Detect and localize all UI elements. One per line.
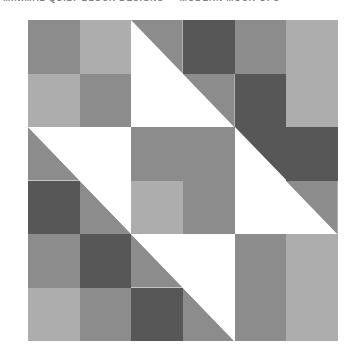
solid-patch (28, 234, 80, 288)
quilt-cell-r6-c4 (183, 288, 235, 342)
solid-patch (28, 20, 80, 74)
quilt-cell-r2-c4 (183, 74, 235, 128)
solid-patch (80, 74, 132, 128)
quilt-cell-r1-c6 (286, 20, 338, 74)
quilt-cell-r1-c1 (28, 20, 80, 74)
half-square-triangle (286, 181, 338, 235)
half-square-triangle (131, 234, 183, 288)
solid-patch (80, 127, 132, 181)
quilt-block-canvas (28, 20, 338, 341)
half-square-triangle (28, 127, 80, 181)
quilt-cell-r1-c3 (131, 20, 183, 74)
solid-patch (28, 181, 80, 235)
page-title: MINIMAL QUILT BLOCK DESIGNS — MODERN MOC… (3, 0, 280, 4)
solid-patch (235, 234, 287, 288)
solid-patch (28, 288, 80, 342)
quilt-cell-r5-c3 (131, 234, 183, 288)
quilt-cell-r4-c2 (80, 181, 132, 235)
quilt-cell-r2-c6 (286, 74, 338, 128)
quilt-cell-r2-c3 (131, 74, 183, 128)
half-square-triangle (235, 127, 287, 181)
quilt-cell-r6-c5 (235, 288, 287, 342)
half-square-triangle (131, 20, 183, 74)
solid-patch (131, 288, 183, 342)
solid-patch (235, 20, 287, 74)
solid-patch (28, 74, 80, 128)
quilt-cell-r3-c6 (286, 127, 338, 181)
solid-patch (235, 181, 287, 235)
solid-patch (80, 20, 132, 74)
solid-patch (286, 127, 338, 181)
solid-patch (235, 74, 287, 128)
quilt-cell-r1-c4 (183, 20, 235, 74)
half-square-triangle (183, 288, 235, 342)
quilt-cell-r4-c4 (183, 181, 235, 235)
quilt-cell-r3-c2 (80, 127, 132, 181)
quilt-cell-r4-c3 (131, 181, 183, 235)
half-square-triangle (183, 74, 235, 128)
solid-patch (286, 288, 338, 342)
solid-patch (286, 234, 338, 288)
quilt-cell-r2-c5 (235, 74, 287, 128)
solid-patch (131, 127, 183, 181)
solid-patch (80, 234, 132, 288)
quilt-cell-r5-c2 (80, 234, 132, 288)
quilt-cell-r2-c2 (80, 74, 132, 128)
quilt-cell-r2-c1 (28, 74, 80, 128)
solid-patch (286, 20, 338, 74)
quilt-cell-r3-c1 (28, 127, 80, 181)
solid-patch (286, 74, 338, 128)
quilt-cell-r6-c3 (131, 288, 183, 342)
solid-patch (183, 20, 235, 74)
quilt-cell-r3-c4 (183, 127, 235, 181)
solid-patch (183, 181, 235, 235)
quilt-cell-r3-c5 (235, 127, 287, 181)
quilt-cell-r3-c3 (131, 127, 183, 181)
quilt-cell-r5-c1 (28, 234, 80, 288)
solid-patch (235, 288, 287, 342)
quilt-cell-r5-c6 (286, 234, 338, 288)
solid-patch (131, 181, 183, 235)
quilt-cell-r6-c6 (286, 288, 338, 342)
quilt-cell-r4-c5 (235, 181, 287, 235)
quilt-cell-r6-c1 (28, 288, 80, 342)
header-strip: MINIMAL QUILT BLOCK DESIGNS — MODERN MOC… (0, 0, 360, 14)
solid-patch (183, 127, 235, 181)
quilt-cell-r4-c1 (28, 181, 80, 235)
solid-patch (183, 234, 235, 288)
half-square-triangle (80, 181, 132, 235)
solid-patch (131, 74, 183, 128)
quilt-cell-r6-c2 (80, 288, 132, 342)
quilt-cell-r5-c4 (183, 234, 235, 288)
quilt-cell-r1-c5 (235, 20, 287, 74)
quilt-cell-r5-c5 (235, 234, 287, 288)
quilt-cell-r4-c6 (286, 181, 338, 235)
solid-patch (80, 288, 132, 342)
quilt-cell-r1-c2 (80, 20, 132, 74)
